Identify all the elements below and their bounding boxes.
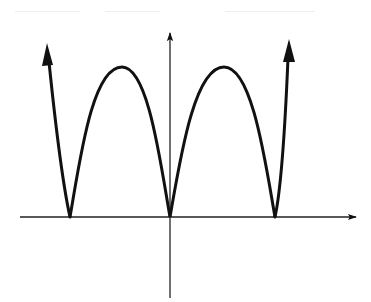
- curve-left-branch: [49, 62, 70, 217]
- curve-arch-1: [70, 67, 170, 217]
- curve-left-arrowhead: [42, 43, 53, 66]
- function-graph: [0, 0, 371, 302]
- curve-arch-2: [170, 67, 275, 217]
- curve-right-arrowhead: [283, 39, 295, 62]
- curve-right-branch: [275, 58, 288, 217]
